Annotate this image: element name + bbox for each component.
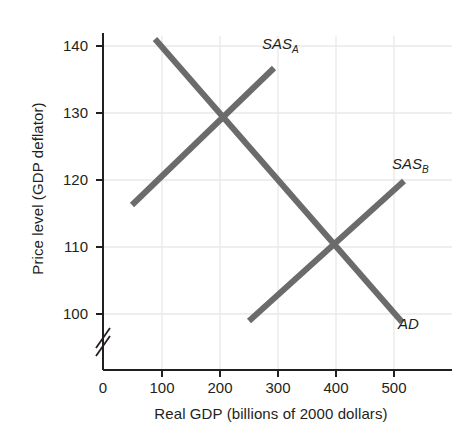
curve-label-sas-a-text: SAS <box>262 35 292 52</box>
curve-label-sas-b-text: SAS <box>392 155 422 172</box>
x-tick-label-100: 100 <box>140 379 184 396</box>
economics-chart-figure: 140 130 120 110 100 0 100 200 300 400 50… <box>0 0 459 444</box>
x-tick-label-500: 500 <box>372 379 416 396</box>
y-tick-label-140: 140 <box>48 37 88 54</box>
x-tick-label-400: 400 <box>314 379 358 396</box>
y-tick-label-110: 110 <box>48 238 88 255</box>
curve-label-sas-b: SASB <box>392 155 429 175</box>
y-tick-label-130: 130 <box>48 104 88 121</box>
curve-label-sas-b-subscript: B <box>422 164 429 175</box>
x-axis-title: Real GDP (billions of 2000 dollars) <box>96 405 446 422</box>
y-tick-label-120: 120 <box>48 171 88 188</box>
curve-label-ad: AD <box>398 315 419 332</box>
x-tick-label-300: 300 <box>256 379 300 396</box>
chart-plot-area <box>0 0 459 444</box>
curve-label-sas-a: SASA <box>262 35 299 55</box>
y-axis-title: Price level (GDP deflator) <box>29 59 46 319</box>
curve-sas-a <box>132 68 274 205</box>
x-axis-ticks <box>162 370 394 377</box>
origin-label: 0 <box>81 379 125 396</box>
y-axis-ticks <box>96 46 103 314</box>
y-tick-label-100: 100 <box>48 305 88 322</box>
curve-label-sas-a-subscript: A <box>292 44 299 55</box>
x-tick-label-200: 200 <box>198 379 242 396</box>
